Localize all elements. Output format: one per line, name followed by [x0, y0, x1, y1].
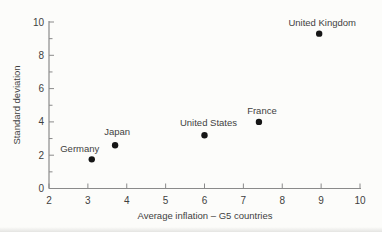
point-label-germany: Germany	[60, 143, 99, 154]
y-tick-label: 8	[38, 50, 44, 61]
chart-svg: Average inflation – G5 countries Standar…	[0, 0, 382, 232]
point-label-united-states: United States	[180, 117, 237, 128]
y-tick-label: 4	[38, 116, 44, 127]
x-tick-label: 6	[202, 195, 208, 206]
scatter-plot-figure: Average inflation – G5 countries Standar…	[0, 0, 382, 232]
x-tick-label: 5	[163, 195, 169, 206]
y-tick-label: 0	[38, 183, 44, 194]
y-axis-title: Standard deviation	[11, 65, 22, 144]
y-tick-label: 6	[38, 83, 44, 94]
x-tick-label: 7	[241, 195, 247, 206]
data-point-france	[256, 119, 262, 125]
x-tick-label: 8	[279, 195, 285, 206]
x-tick-label: 2	[46, 195, 52, 206]
data-point-germany	[89, 156, 95, 162]
x-tick-label: 10	[354, 195, 366, 206]
point-label-japan: Japan	[104, 126, 130, 137]
data-point-united-kingdom	[316, 30, 322, 36]
y-tick-label: 2	[38, 150, 44, 161]
x-tick-label: 3	[85, 195, 91, 206]
data-point-united-states	[201, 132, 207, 138]
data-point-japan	[112, 142, 118, 148]
x-axis-title: Average inflation – G5 countries	[137, 210, 272, 221]
x-tick-label: 9	[318, 195, 324, 206]
y-tick-label: 10	[33, 17, 45, 28]
point-label-united-kingdom: United Kingdom	[288, 17, 356, 28]
x-tick-label: 4	[124, 195, 130, 206]
point-label-france: France	[247, 105, 277, 116]
